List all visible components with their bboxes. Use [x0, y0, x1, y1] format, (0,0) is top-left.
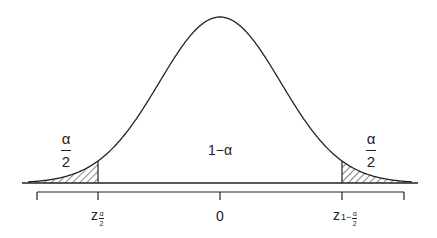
- alpha-symbol: α: [62, 131, 71, 146]
- left-critical-value-label: z α 2: [91, 207, 104, 227]
- left-tail-label: α 2: [61, 131, 71, 169]
- fraction-bar: [366, 150, 376, 151]
- alpha-symbol: α: [367, 131, 376, 146]
- subscript-fraction: α 2: [99, 210, 104, 227]
- denominator: 2: [367, 154, 375, 169]
- center-tick-label: 0: [216, 209, 224, 223]
- fraction-bar: [61, 150, 71, 151]
- subscript-fraction: α 2: [352, 210, 357, 227]
- density-plot: [0, 0, 437, 238]
- right-tail-label: α 2: [366, 131, 376, 169]
- denominator: 2: [62, 154, 70, 169]
- center-area-label: 1−α: [208, 143, 232, 157]
- normal-distribution-diagram: α 2 α 2 1−α z α 2 0 z 1− α 2: [0, 0, 437, 238]
- right-critical-value-label: z 1− α 2: [333, 207, 357, 227]
- right-tail-shading: [342, 161, 412, 183]
- x-axis: [37, 192, 404, 200]
